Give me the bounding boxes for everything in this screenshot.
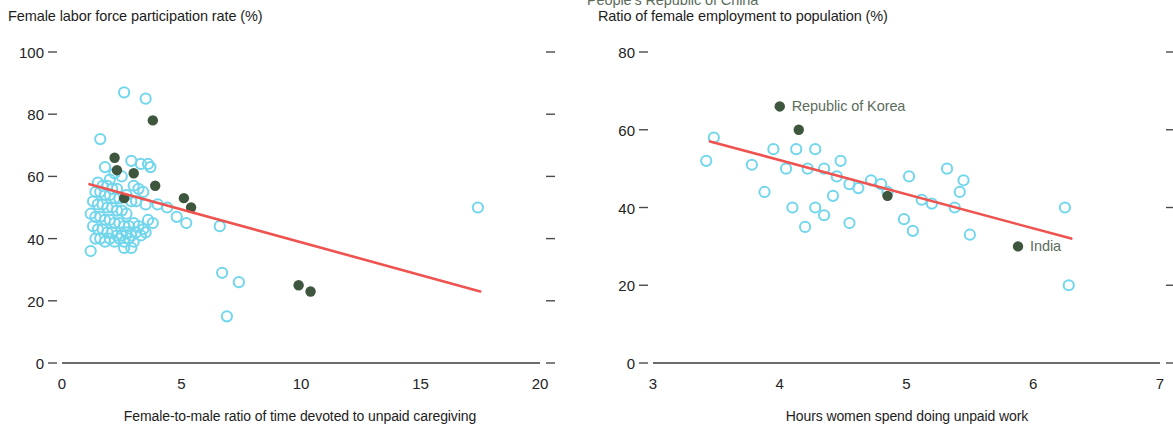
y-tick-label: 40 xyxy=(618,199,635,216)
scatter-point-open xyxy=(100,162,110,172)
y-tick-label: 0 xyxy=(627,355,635,372)
data-label-india: India xyxy=(1030,238,1061,254)
scatter-point-open xyxy=(908,226,918,236)
scatter-point-filled xyxy=(148,115,158,125)
y-tick-label: 100 xyxy=(19,44,44,61)
x-tick-label: 0 xyxy=(58,375,66,392)
scatter-point-open xyxy=(844,218,854,228)
scatter-point-open xyxy=(215,221,225,231)
x-tick-label: 5 xyxy=(177,375,185,392)
scatter-point-open xyxy=(145,162,155,172)
scatter-point-open xyxy=(810,202,820,212)
scatter-point-open xyxy=(853,183,863,193)
scatter-point-open xyxy=(119,87,129,97)
y-tick-label: 80 xyxy=(27,106,44,123)
left-plot-svg xyxy=(0,0,586,424)
y-tick-label: 20 xyxy=(27,292,44,309)
scatter-point-open xyxy=(810,144,820,154)
scatter-point-open xyxy=(791,144,801,154)
scatter-point-open xyxy=(747,160,757,170)
right-plot-svg xyxy=(587,0,1173,424)
scatter-point-open xyxy=(828,191,838,201)
scatter-point-open xyxy=(1060,202,1070,212)
scatter-point-filled xyxy=(129,168,139,178)
data-label-republic-of-korea: Republic of Korea xyxy=(792,98,906,114)
scatter-point-open xyxy=(835,156,845,166)
scatter-point-open xyxy=(899,214,909,224)
scatter-point-open xyxy=(95,134,105,144)
x-tick-label: 15 xyxy=(412,375,429,392)
scatter-point-open xyxy=(234,277,244,287)
x-tick-label: 6 xyxy=(1029,375,1037,392)
scatter-point-filled xyxy=(882,191,892,201)
right-plot-area xyxy=(587,0,1173,424)
scatter-point-open xyxy=(217,268,227,278)
annotation-marker xyxy=(794,125,804,135)
left-x-axis-caption: Female-to-male ratio of time devoted to … xyxy=(124,408,476,424)
y-tick-label: 80 xyxy=(618,44,635,61)
y-tick-label: 20 xyxy=(618,277,635,294)
scatter-point-open xyxy=(781,164,791,174)
scatter-point-filled xyxy=(293,280,303,290)
scatter-point-open xyxy=(768,144,778,154)
x-tick-label: 4 xyxy=(776,375,784,392)
scatter-point-open xyxy=(141,94,151,104)
scatter-point-open xyxy=(904,171,914,181)
scatter-point-filled xyxy=(109,153,119,163)
scatter-point-open xyxy=(942,164,952,174)
scatter-point-open xyxy=(800,222,810,232)
scatter-point-open xyxy=(759,187,769,197)
y-tick-label: 0 xyxy=(36,355,44,372)
right-x-axis-caption: Hours women spend doing unpaid work xyxy=(786,408,1028,424)
scatter-point-open xyxy=(965,230,975,240)
x-tick-label: 20 xyxy=(532,375,549,392)
scatter-point-open xyxy=(955,187,965,197)
annotation-marker xyxy=(775,101,785,111)
scatter-point-open xyxy=(701,156,711,166)
scatter-point-open xyxy=(787,202,797,212)
x-tick-label: 5 xyxy=(902,375,910,392)
scatter-point-open xyxy=(1064,280,1074,290)
scatter-point-open xyxy=(181,218,191,228)
scatter-point-open xyxy=(86,246,96,256)
trend-line xyxy=(710,141,1071,238)
scatter-point-filled xyxy=(1013,241,1023,251)
y-tick-label: 40 xyxy=(27,230,44,247)
y-tick-label: 60 xyxy=(27,168,44,185)
scatter-point-open xyxy=(819,210,829,220)
x-tick-label: 3 xyxy=(649,375,657,392)
scatter-point-open xyxy=(126,243,136,253)
scatter-point-filled xyxy=(150,181,160,191)
scatter-point-filled xyxy=(112,165,122,175)
scatter-point-open xyxy=(473,202,483,212)
scatter-point-filled xyxy=(305,286,315,296)
left-plot-area xyxy=(0,0,586,424)
panel-right: Ratio of female employment to population… xyxy=(587,0,1173,424)
x-tick-label: 7 xyxy=(1156,375,1164,392)
scatter-point-open xyxy=(958,175,968,185)
scatter-point-filled xyxy=(179,193,189,203)
panel-left: Female labor force participation rate (%… xyxy=(0,0,586,424)
scatter-point-open xyxy=(222,311,232,321)
data-label-peoples-republic-of-china: People’s Republic of China xyxy=(587,0,758,8)
scatter-point-open xyxy=(172,212,182,222)
x-tick-label: 10 xyxy=(293,375,310,392)
y-tick-label: 60 xyxy=(618,121,635,138)
figure-two-panel-scatter: Female labor force participation rate (%… xyxy=(0,0,1173,424)
